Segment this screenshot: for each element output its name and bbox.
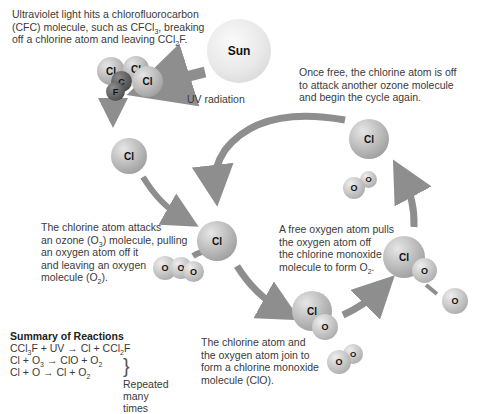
reaction-2: Cl + O3 → ClO + O2 (10, 354, 130, 366)
free-o-atom: O (442, 288, 468, 314)
free-cl-atom: Cl (111, 138, 147, 174)
summary-title: Summary of Reactions (10, 330, 130, 342)
freed-cl-atom: Cl (349, 119, 389, 159)
cl-to-attack-arrow (143, 177, 183, 218)
caption-join: The chlorine atom and the oxygen atom jo… (201, 336, 319, 386)
reaction-1: CCl3F + UV → Cl + CCl2F (10, 342, 130, 354)
o2-bottom-atom-2: O (327, 350, 351, 374)
cfc-f-atom: F (106, 82, 125, 101)
caption-free-oxygen: A free oxygen atom pulls the oxygen atom… (279, 223, 394, 273)
uv-arrow (158, 72, 205, 85)
attacking-cl-atom: Cl (197, 221, 237, 261)
caption-once-free: Once free, the chlorine atom is off to a… (299, 66, 456, 104)
return-arc-arrow (215, 116, 345, 186)
sun: Sun (207, 19, 271, 83)
cl-to-clo-arrow (237, 266, 282, 310)
reaction-3: Cl + O → Cl + O2 (10, 366, 130, 378)
clo-to-right-arrow (343, 290, 380, 315)
ozone-o-atom-3: O (183, 261, 204, 282)
caption-uv-hit: Ultraviolet light hits a chlorofluorocar… (12, 8, 204, 46)
summary-of-reactions: Summary of Reactions CCl3F + UV → Cl + C… (10, 330, 130, 378)
brace-icon: } (123, 354, 130, 378)
o-release-arrow (426, 285, 437, 294)
clo-right-o-atom: O (412, 258, 437, 283)
uv-radiation-label: UV radiation (187, 93, 245, 106)
right-to-top-arrow (403, 178, 414, 227)
o2-top-atom-2: O (343, 177, 365, 199)
cfc-cl-atom-3: Cl (132, 66, 163, 97)
repeated-brace-label: } Repeated many times (123, 354, 169, 414)
